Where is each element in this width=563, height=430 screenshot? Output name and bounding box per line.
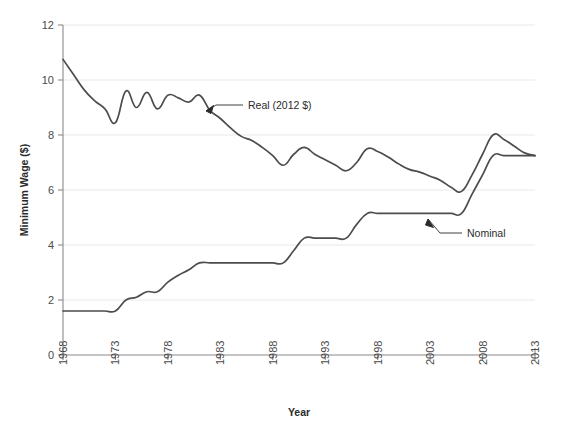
y-tick-group: 024681012 [42, 19, 63, 361]
annotation-label-real: Real (2012 $) [248, 99, 312, 111]
x-axis-title: Year [288, 406, 310, 418]
annotations-group: Real (2012 $) Nominal [206, 99, 506, 239]
x-tick-label-1998: 1998 [372, 341, 384, 365]
x-tick-label-1973: 1973 [109, 341, 121, 365]
y-axis-title: Minimum Wage ($) [18, 144, 30, 236]
chart-canvas: 024681012 196819731978198319881993199820… [0, 0, 563, 430]
x-tick-label-2003: 2003 [424, 341, 436, 365]
y-tick-label-8: 8 [48, 129, 54, 141]
series-group [63, 59, 535, 312]
x-tick-label-2008: 2008 [477, 341, 489, 365]
y-tick-label-12: 12 [42, 19, 54, 31]
x-tick-label-1978: 1978 [162, 341, 174, 365]
y-tick-label-2: 2 [48, 294, 54, 306]
y-tick-label-6: 6 [48, 184, 54, 196]
x-tick-label-1983: 1983 [214, 341, 226, 365]
x-tick-label-1988: 1988 [267, 341, 279, 365]
y-tick-label-10: 10 [42, 74, 54, 86]
x-tick-label-1993: 1993 [319, 341, 331, 365]
y-tick-label-4: 4 [48, 239, 54, 251]
annotation-label-nominal: Nominal [467, 227, 506, 239]
x-tick-group: 1968197319781983198819931998200320082013 [57, 341, 541, 365]
x-tick-label-2013: 2013 [529, 341, 541, 365]
series-line-real [63, 59, 535, 192]
minimum-wage-chart: 024681012 196819731978198319881993199820… [0, 0, 563, 430]
gridlines-group [63, 25, 535, 300]
y-tick-label-0: 0 [48, 349, 54, 361]
x-tick-label-1968: 1968 [57, 341, 69, 365]
series-line-nominal [63, 154, 535, 312]
